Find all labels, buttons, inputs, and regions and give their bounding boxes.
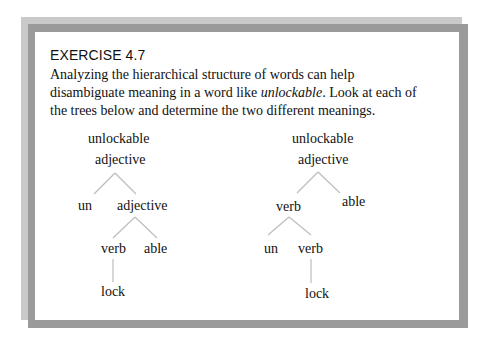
- right-tree-word: unlockable: [292, 131, 353, 147]
- right-tree-level1-right: able: [342, 194, 365, 210]
- right-tree: unlockable adjective verb able un verb l…: [0, 0, 490, 352]
- right-tree-leaf: lock: [305, 286, 329, 302]
- right-tree-root: adjective: [298, 152, 349, 168]
- right-tree-level2-left: un: [264, 241, 278, 257]
- right-tree-level1-left: verb: [276, 199, 301, 215]
- right-tree-level2-right: verb: [298, 241, 323, 257]
